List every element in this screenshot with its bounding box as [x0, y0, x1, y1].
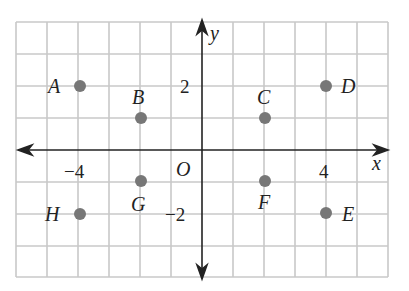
x-axis-label: x — [371, 152, 381, 174]
point-f — [259, 175, 271, 187]
origin-label: O — [176, 158, 190, 180]
point-b — [135, 112, 147, 124]
point-label-b: B — [132, 86, 144, 108]
point-g — [135, 175, 147, 187]
point-c — [259, 112, 271, 124]
point-label-c: C — [257, 86, 271, 108]
point-h — [74, 208, 86, 220]
tick-label-x-neg4: −4 — [64, 161, 85, 182]
point-label-d: D — [340, 75, 356, 97]
point-label-h: H — [44, 203, 61, 225]
point-label-e: E — [341, 203, 354, 225]
point-e — [320, 207, 332, 219]
point-label-f: F — [257, 191, 271, 213]
tick-label-y-neg2: −2 — [165, 204, 185, 225]
point-label-a: A — [46, 75, 61, 97]
point-a — [74, 80, 86, 92]
tick-label-x-4: 4 — [319, 161, 329, 182]
coordinate-plane: y x O −4 4 2 −2 A B C D E F G H — [0, 0, 409, 291]
point-d — [320, 80, 332, 92]
x-axis — [18, 145, 388, 155]
y-axis-label: y — [208, 22, 219, 45]
point-label-g: G — [131, 193, 146, 215]
tick-label-y-2: 2 — [180, 76, 190, 97]
